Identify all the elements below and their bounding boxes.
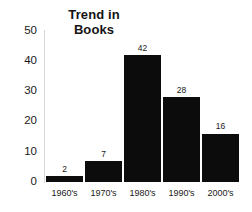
bar-value-1980s: 42	[124, 44, 161, 53]
x-tick-label-2000s: 2000's	[200, 188, 241, 198]
bar-value-1970s: 7	[85, 150, 122, 159]
bar-value-1990s: 28	[163, 86, 200, 95]
x-tick-label-1990s: 1990's	[161, 188, 202, 198]
bar-2000s	[202, 134, 239, 182]
x-tick-label-1970s: 1970's	[83, 188, 124, 198]
x-tick-label-1960s: 1960's	[44, 188, 85, 198]
bar-value-2000s: 16	[202, 122, 239, 131]
bar-chart: Trend in Books 0 10 20 30 40 50 2 7 42 2…	[0, 0, 252, 212]
x-tick-label-1980s: 1980's	[122, 188, 163, 198]
bar-1980s	[124, 55, 161, 182]
bars-layer: 2 7 42 28 16	[0, 0, 252, 212]
bar-1990s	[163, 97, 200, 182]
bar-1960s	[46, 176, 83, 182]
bar-value-1960s: 2	[46, 165, 83, 174]
bar-1970s	[85, 161, 122, 182]
